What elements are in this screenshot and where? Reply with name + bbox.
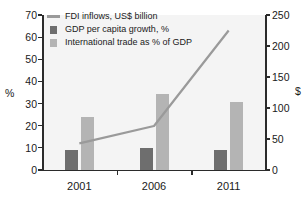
left-axis-tick-label: 70 xyxy=(25,10,37,21)
right-axis-tick-label: 50 xyxy=(272,134,284,145)
chart-container: % $ 010203040506070050100150200250200120… xyxy=(0,0,307,203)
x-axis-tick-label: 2001 xyxy=(67,181,91,192)
left-axis-title: % xyxy=(5,88,14,99)
right-axis-tick-label: 200 xyxy=(272,41,290,52)
right-axis-tick xyxy=(266,107,270,108)
right-axis-tick-label: 150 xyxy=(272,72,290,83)
right-axis-tick xyxy=(266,169,270,170)
fdi-inflows-line xyxy=(42,15,266,170)
right-axis-tick-label: 0 xyxy=(272,165,278,176)
line-path xyxy=(79,31,228,144)
right-axis-tick-label: 100 xyxy=(272,103,290,114)
x-axis-tick xyxy=(191,171,192,175)
left-axis-tick-label: 40 xyxy=(25,76,37,87)
right-axis-tick xyxy=(266,138,270,139)
right-axis-tick xyxy=(266,14,270,15)
left-axis-tick-label: 30 xyxy=(25,99,37,110)
x-axis-tick-label: 2011 xyxy=(217,181,241,192)
left-axis-tick-label: 50 xyxy=(25,54,37,65)
left-axis-tick-label: 0 xyxy=(31,165,37,176)
x-axis-tick xyxy=(117,171,118,175)
left-axis-tick-label: 60 xyxy=(25,32,37,43)
left-axis-tick-label: 10 xyxy=(25,143,37,154)
left-axis-tick-label: 20 xyxy=(25,121,37,132)
x-axis-tick-label: 2006 xyxy=(142,181,166,192)
right-axis-title: $ xyxy=(295,86,301,97)
right-axis-tick xyxy=(266,76,270,77)
right-axis-tick-label: 250 xyxy=(272,10,290,21)
right-axis-tick xyxy=(266,45,270,46)
